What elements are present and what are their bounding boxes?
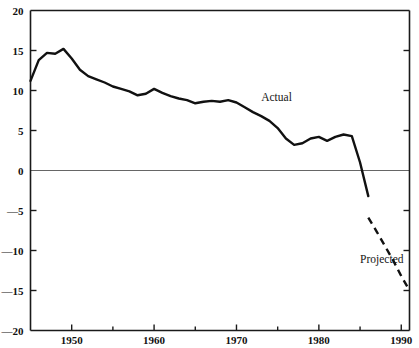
x-tick-label-1960: 1960 [143,334,166,346]
y-tick-label-20: 20 [13,5,25,17]
annotation-actual: Actual [261,91,292,103]
x-tick-label-1980: 1980 [308,334,331,346]
axis-tick-marks [31,51,410,331]
y-tick-label-15: 15 [13,45,25,57]
y-tick-label--10: —10 [1,245,25,257]
series-line-actual [31,49,369,196]
y-tick-label--5: —5 [6,205,24,217]
x-tick-label-1990: 1990 [390,334,413,346]
y-axis-tick-labels: 20151050—5—10—15—20 [1,5,25,337]
x-tick-label-1970: 1970 [225,334,248,346]
y-tick-label-0: 0 [18,165,24,177]
y-tick-label--15: —15 [1,285,25,297]
annotation-projected: Projected [360,253,404,266]
chart-figure: 20151050—5—10—15—20 19501960197019801990… [0,0,419,348]
y-tick-label--20: —20 [1,325,25,337]
y-tick-label-10: 10 [13,85,25,97]
line-chart: 20151050—5—10—15—20 19501960197019801990… [0,0,419,348]
y-tick-label-5: 5 [18,125,24,137]
x-axis-tick-labels: 19501960197019801990 [61,334,413,346]
x-tick-label-1950: 1950 [61,334,84,346]
